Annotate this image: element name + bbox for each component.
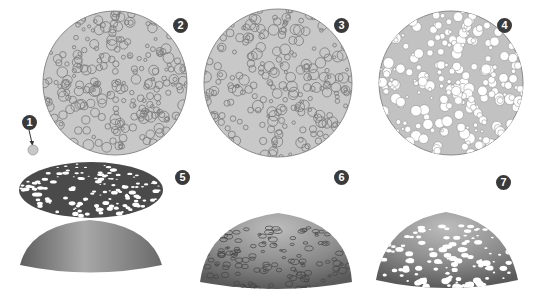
step-badge-3: 3 <box>334 18 349 33</box>
step-badge-4: 4 <box>497 18 512 33</box>
process-diagram <box>0 0 536 308</box>
step-badge-5: 5 <box>175 170 190 185</box>
step-badge-6: 6 <box>334 170 349 185</box>
step-1-circle <box>28 130 38 155</box>
step-badge-1: 1 <box>22 115 37 130</box>
step-3-disk <box>201 5 356 161</box>
step-5-disk-over-dome <box>19 162 163 273</box>
step-6-dome-outlined <box>197 213 354 292</box>
step-badge-7: 7 <box>496 175 511 190</box>
step-badge-2: 2 <box>173 18 188 33</box>
step-7-perforated-dome <box>374 212 523 291</box>
step-2-disk <box>40 8 193 155</box>
